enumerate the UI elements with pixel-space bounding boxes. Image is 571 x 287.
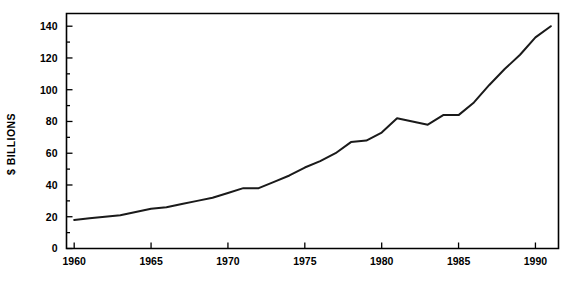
x-tick-label-1970: 1970 [216,255,240,267]
x-axis-tick-marks [74,243,535,249]
x-tick-label-1985: 1985 [447,255,471,267]
y-tick-label-100: 100 [40,84,58,96]
line-chart-figure: $ BILLIONS 020406080100120140 1960196519… [0,0,571,287]
y-tick-label-120: 120 [40,52,58,64]
x-tick-label-1960: 1960 [63,255,87,267]
x-tick-label-1965: 1965 [139,255,163,267]
y-tick-label-80: 80 [46,115,58,127]
y-tick-label-0: 0 [52,242,58,254]
x-axis-tick-labels: 1960196519701975198019851990 [63,255,548,267]
y-tick-label-60: 60 [46,147,58,159]
plot-area: 020406080100120140 196019651970197519801… [0,0,571,287]
y-axis-tick-marks [67,26,73,248]
y-tick-label-40: 40 [46,179,58,191]
plot-frame [67,14,559,249]
x-tick-label-1975: 1975 [293,255,317,267]
data-series-line [74,26,551,220]
y-axis-tick-labels: 020406080100120140 [40,20,58,254]
x-tick-label-1980: 1980 [370,255,394,267]
y-tick-label-20: 20 [46,211,58,223]
x-tick-label-1990: 1990 [524,255,548,267]
y-tick-label-140: 140 [40,20,58,32]
